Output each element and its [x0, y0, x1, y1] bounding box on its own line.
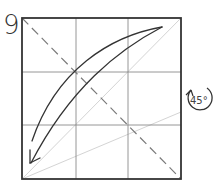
fold-diagram: 45° [0, 0, 219, 194]
curved-fold-arrow-icon [30, 27, 162, 163]
rotation-label: 45° [190, 95, 208, 106]
rotate-45-icon: 45° [186, 88, 212, 110]
